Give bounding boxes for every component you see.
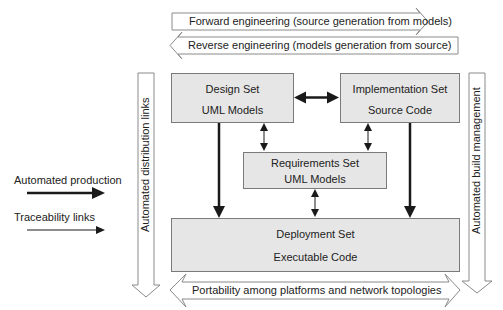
implementation-set-subtitle: Source Code: [341, 105, 459, 116]
legend-traceability-links: Traceability links: [14, 212, 95, 223]
legend-automated-production: Automated production: [14, 175, 122, 186]
portability-label: Portability among platforms and network …: [192, 285, 441, 296]
design-set-title: Design Set: [172, 84, 293, 95]
implementation-set-title: Implementation Set: [341, 84, 459, 95]
reverse-engineering-label: Reverse engineering (models generation f…: [188, 40, 452, 51]
deployment-set-box: Deployment Set Executable Code: [171, 218, 460, 272]
deployment-set-title: Deployment Set: [172, 229, 459, 240]
design-set-subtitle: UML Models: [172, 105, 293, 116]
automated-distribution-label: Automated distribution links: [140, 97, 151, 232]
deployment-set-subtitle: Executable Code: [172, 252, 459, 263]
requirements-set-title: Requirements Set: [244, 158, 386, 169]
implementation-set-box: Implementation Set Source Code: [340, 73, 460, 123]
design-set-box: Design Set UML Models: [171, 73, 294, 123]
automated-build-label: Automated build management: [471, 87, 482, 234]
forward-engineering-label: Forward engineering (source generation f…: [189, 16, 452, 27]
requirements-set-subtitle: UML Models: [244, 174, 386, 185]
requirements-set-box: Requirements Set UML Models: [243, 152, 387, 189]
